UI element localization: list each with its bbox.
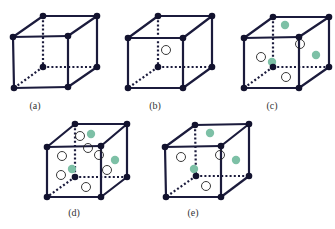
open-atom: [103, 166, 112, 175]
cube-e: [162, 121, 253, 201]
green-atom: [281, 21, 289, 29]
cube-edge: [244, 37, 299, 38]
corner-atom: [270, 64, 277, 71]
cube-c: [241, 14, 333, 92]
corner-atom: [326, 64, 333, 71]
corner-atom: [44, 194, 51, 201]
corner-atom: [94, 64, 101, 71]
cube-edge: [221, 176, 249, 197]
corner-atom: [241, 85, 248, 92]
corner-atom: [180, 35, 187, 42]
cube-edge: [101, 124, 127, 146]
label-c: (c): [266, 100, 277, 111]
cube-edge: [165, 125, 195, 147]
green-atom: [87, 130, 95, 138]
cube-edge: [101, 177, 127, 197]
open-atom: [162, 46, 171, 55]
open-atom: [177, 153, 186, 162]
open-atom: [282, 73, 291, 82]
corner-atom: [98, 143, 105, 150]
corner-atom: [125, 85, 132, 92]
cube-d: [44, 121, 131, 201]
corner-atom: [296, 34, 303, 41]
corner-atom: [326, 14, 333, 21]
label-d: (d): [68, 207, 80, 218]
corner-atom: [44, 144, 51, 151]
green-atom: [190, 165, 198, 173]
corner-atom: [40, 13, 47, 20]
label-b: (b): [149, 100, 161, 111]
corner-atom: [124, 121, 131, 128]
corner-atom: [209, 64, 216, 71]
cube-edge: [299, 67, 329, 88]
corner-atom: [241, 35, 248, 42]
hidden-edge: [47, 177, 75, 197]
label-e: (e): [187, 207, 198, 218]
cube-edge: [221, 124, 249, 146]
corner-atom: [94, 13, 101, 20]
open-atom: [84, 144, 93, 153]
cube-edge: [14, 87, 68, 88]
corner-atom: [246, 173, 253, 180]
corner-atom: [209, 13, 216, 20]
hidden-edge: [128, 67, 158, 88]
cube-figures: [0, 0, 335, 229]
corner-atom: [124, 174, 131, 181]
corner-atom: [246, 121, 253, 128]
open-atom: [82, 183, 91, 192]
cube-edge: [13, 36, 68, 37]
corner-atom: [163, 194, 170, 201]
open-atom: [76, 132, 85, 141]
corner-atom: [218, 194, 225, 201]
green-atom: [232, 156, 240, 164]
open-atom: [202, 182, 211, 191]
cube-edge: [128, 16, 158, 38]
open-atom: [257, 53, 266, 62]
corner-atom: [40, 64, 47, 71]
corner-atom: [193, 173, 200, 180]
corner-atom: [11, 85, 18, 92]
green-atom: [312, 51, 320, 59]
green-atom: [111, 156, 119, 164]
cube-edge: [183, 16, 212, 38]
corner-atom: [162, 144, 169, 151]
cube-edge: [68, 67, 97, 87]
corner-atom: [192, 122, 199, 129]
crystal-structure-diagram: (a) (b) (c) (d) (e): [0, 0, 335, 229]
corner-atom: [10, 34, 17, 41]
corner-atom: [218, 143, 225, 150]
corner-atom: [155, 64, 162, 71]
cube-b: [125, 13, 216, 92]
hidden-edge: [244, 67, 273, 88]
hidden-edge: [14, 67, 43, 88]
open-atom: [95, 151, 104, 160]
cube-edge: [299, 17, 329, 37]
cube-edge: [244, 17, 273, 38]
green-atom: [206, 129, 214, 137]
corner-atom: [72, 121, 79, 128]
corner-atom: [65, 33, 72, 40]
hidden-edge: [166, 176, 196, 197]
cube-edge: [183, 67, 212, 88]
corner-atom: [98, 194, 105, 201]
cube-edge: [165, 146, 221, 147]
corner-atom: [65, 84, 72, 91]
label-a: (a): [29, 100, 40, 111]
corner-atom: [270, 14, 277, 21]
cube-edge: [47, 124, 75, 147]
green-atom: [68, 165, 76, 173]
cube-edge: [195, 124, 249, 125]
cube-edge: [13, 16, 43, 37]
cube-edge: [13, 37, 14, 88]
open-atom: [57, 171, 66, 180]
cube-edge: [47, 146, 101, 147]
corner-atom: [155, 13, 162, 20]
corner-atom: [72, 174, 79, 181]
corner-atom: [180, 85, 187, 92]
corner-atom: [125, 35, 132, 42]
cube-edge: [165, 147, 166, 197]
cube-edge: [68, 16, 97, 36]
corner-atom: [296, 85, 303, 92]
cube-a: [10, 13, 101, 92]
open-atom: [58, 152, 67, 161]
